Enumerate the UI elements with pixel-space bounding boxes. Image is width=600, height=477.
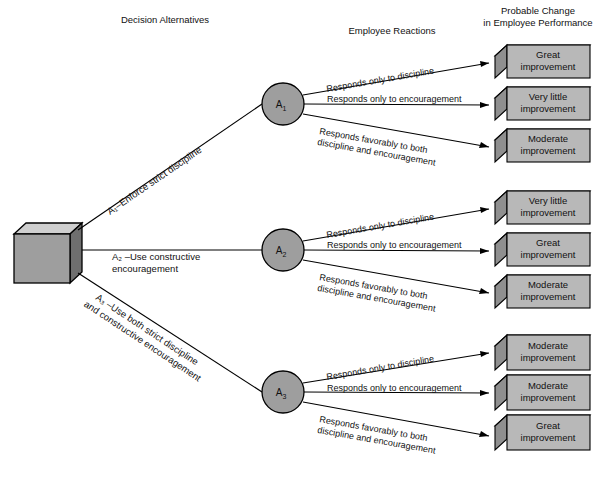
outcome-box-a2-2-line1: Great (536, 237, 560, 248)
outcome-box-a1-3[interactable]: Moderate improvement (495, 129, 590, 162)
decision-tree-canvas: Decision Alternatives Employee Reactions… (0, 0, 600, 477)
arrowhead-a3-1 (480, 351, 489, 357)
decision-node[interactable] (14, 223, 82, 283)
reaction-label-a3-1: Responds only to discipline (326, 354, 435, 382)
outcome-box-a3-3-line1: Great (536, 420, 560, 431)
arrowhead-a3-3 (479, 431, 489, 437)
svg-text:A₃ –Use both strict discipline: A₃ –Use both strict discipline (94, 291, 201, 367)
outcome-box-a2-1-line1: Very little (529, 195, 568, 206)
decision-node-front-face (14, 234, 70, 283)
outcome-box-a2-3-line1: Moderate (528, 279, 568, 290)
outcome-box-a1-2-line1: Very little (529, 91, 568, 102)
arrowhead-a3-2 (480, 390, 489, 396)
alt-label-a1: A₁–Enforce strict discipline (105, 144, 204, 216)
outcome-box-a1-2-line2: improvement (521, 103, 576, 114)
edge-root-to-a3 (78, 273, 262, 392)
arrowhead-a1-1 (480, 61, 489, 67)
alt-label-a3-line2: and constructive encouragement (82, 298, 203, 383)
arrowhead-a1-2 (480, 102, 489, 108)
chance-node-a1-circle (262, 83, 304, 125)
reaction-label-a1-2: Responds only to encouragement (327, 94, 462, 104)
reaction-label-a1-1: Responds only to discipline (326, 66, 435, 94)
chance-node-a1[interactable]: A1 (262, 83, 304, 125)
outcome-box-a2-3[interactable]: Moderate improvement (495, 275, 590, 308)
outcome-box-a1-3-line1: Moderate (528, 133, 568, 144)
edge-a1-reaction-2 (304, 104, 489, 105)
outcome-box-a1-2-side (495, 87, 507, 120)
outcome-box-a3-3-side (495, 415, 507, 450)
reaction-label-a2-1: Responds only to discipline (326, 212, 435, 240)
header-employee-reactions: Employee Reactions (348, 25, 435, 36)
chance-node-a2-circle (262, 229, 304, 271)
outcome-box-a2-2-side (495, 233, 507, 266)
outcome-box-a2-1-side (495, 191, 507, 224)
outcome-box-a1-3-line2: improvement (521, 145, 576, 156)
outcome-box-a1-1-line1: Great (536, 49, 560, 60)
outcome-box-a3-2-side (495, 375, 507, 410)
chance-node-a3-subscript: 3 (282, 393, 286, 400)
outcome-box-a2-1-line2: improvement (521, 207, 576, 218)
chance-node-a1-subscript: 1 (282, 105, 286, 112)
outcome-box-a2-1[interactable]: Very little improvement (495, 191, 590, 224)
header-probable-change-line2: in Employee Performance (483, 17, 592, 28)
outcome-box-a3-1[interactable]: Moderate improvement (495, 335, 590, 370)
chance-node-a3-circle (262, 371, 304, 413)
reaction-label-a1-1-group: Responds only to discipline (326, 66, 435, 94)
arrowhead-a2-1 (480, 207, 489, 213)
alt-label-a3-group: A₃ –Use both strict discipline and const… (82, 288, 210, 383)
outcome-box-a2-3-line2: improvement (521, 291, 576, 302)
alt-label-a2-line1: A₂ –Use constructive (112, 251, 200, 262)
reaction-label-a3-3-group: Responds favorably to both discipline an… (317, 414, 439, 456)
reaction-label-a3-1-group: Responds only to discipline (326, 354, 435, 382)
outcome-box-a1-1-side (495, 45, 507, 78)
outcome-box-a2-2[interactable]: Great improvement (495, 233, 590, 266)
header-probable-change-line1: Probable Change (501, 5, 575, 16)
chance-node-a2-subscript: 2 (282, 251, 286, 258)
arrowhead-a2-2 (480, 248, 489, 254)
edge-a2-reaction-2 (304, 250, 489, 251)
outcome-box-a3-2-line2: improvement (521, 392, 576, 403)
outcome-box-a3-1-side (495, 335, 507, 370)
arrowhead-a1-3 (479, 142, 489, 148)
outcome-box-a1-3-side (495, 129, 507, 162)
outcome-box-a3-2[interactable]: Moderate improvement (495, 375, 590, 410)
outcome-box-a1-1-line2: improvement (521, 61, 576, 72)
alt-label-a2-line2: encouragement (112, 263, 178, 274)
alt-label-a3-line1: A₃ –Use both strict discipline (94, 291, 201, 367)
outcome-box-a3-2-line1: Moderate (528, 380, 568, 391)
reaction-label-a3-2: Responds only to encouragement (327, 383, 462, 393)
header-decision-alternatives: Decision Alternatives (121, 14, 209, 25)
reaction-label-a2-2: Responds only to encouragement (327, 240, 462, 250)
decision-tree-diagram: Decision Alternatives Employee Reactions… (0, 0, 600, 477)
outcome-box-a1-1[interactable]: Great improvement (495, 45, 590, 78)
outcome-box-a2-2-line2: improvement (521, 249, 576, 260)
outcome-box-a2-3-side (495, 275, 507, 308)
reaction-label-a2-3-group: Responds favorably to both discipline an… (317, 272, 439, 314)
outcome-box-a3-3-line2: improvement (521, 432, 576, 443)
outcome-box-a3-1-line2: improvement (521, 352, 576, 363)
reaction-label-a1-3-group: Responds favorably to both discipline an… (317, 126, 439, 168)
chance-node-a3[interactable]: A3 (262, 371, 304, 413)
reaction-label-a2-1-group: Responds only to discipline (326, 212, 435, 240)
outcome-box-a3-1-line1: Moderate (528, 340, 568, 351)
alt-label-a1-group: A₁–Enforce strict discipline (105, 144, 204, 216)
outcome-box-a1-2[interactable]: Very little improvement (495, 87, 590, 120)
svg-text:and constructive encouragement: and constructive encouragement (82, 298, 203, 383)
svg-text:A₁–Enforce strict discipline: A₁–Enforce strict discipline (105, 144, 204, 216)
chance-node-a2[interactable]: A2 (262, 229, 304, 271)
arrowhead-a2-3 (479, 288, 489, 294)
outcome-box-a3-3[interactable]: Great improvement (495, 415, 590, 450)
